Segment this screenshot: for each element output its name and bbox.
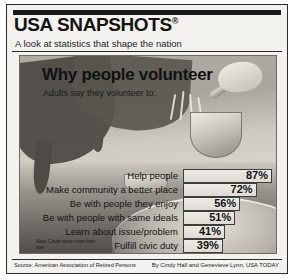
bar-track: 72%: [183, 183, 276, 197]
masthead-title: USA SNAPSHOTS®: [14, 14, 178, 36]
masthead-divider: [12, 51, 282, 52]
registered-trademark-icon: ®: [172, 16, 179, 26]
bar-label: Be with people with same ideals: [20, 211, 183, 225]
bar: 56%: [183, 197, 240, 211]
bar-track: 87%: [183, 169, 276, 183]
bar-row: Help people87%: [20, 169, 276, 183]
bar-track: 51%: [183, 211, 276, 225]
footer: Source: American Association of Retired …: [7, 262, 287, 274]
bar: 51%: [183, 211, 235, 225]
bar-value: 72%: [231, 184, 256, 195]
bar-track: 56%: [183, 197, 276, 211]
bar-track: 41%: [183, 225, 276, 239]
bar: 72%: [183, 183, 257, 197]
footer-divider: [12, 259, 282, 260]
usa-snapshots-infographic: USA SNAPSHOTS® A look at statistics that…: [6, 4, 288, 274]
bar-row: Be with people they enjoy56%: [20, 197, 276, 211]
masthead-title-text: USA SNAPSHOTS: [14, 14, 172, 35]
bar-value: 39%: [197, 240, 222, 251]
bar-label: Be with people they enjoy: [20, 197, 183, 211]
bar: 87%: [183, 169, 272, 183]
illustration-panel: Why people volunteer Adults say they vol…: [19, 55, 277, 254]
bar-label: Learn about issue/problem: [20, 225, 183, 239]
bar-value: 87%: [246, 170, 271, 181]
ladle-icon: [190, 112, 242, 158]
chart-title: Why people volunteer: [42, 65, 213, 85]
footer-credit: By Cindy Hall and Genevieve Lynn, USA TO…: [152, 262, 279, 268]
bar-row: Be with people with same ideals51%: [20, 211, 276, 225]
bar-row: Learn about issue/problem41%: [20, 225, 276, 239]
masthead-tagline: A look at statistics that shape the nati…: [15, 38, 182, 49]
bar-row: Make community a better place72%: [20, 183, 276, 197]
bar: 41%: [183, 225, 225, 239]
bar-label: Make community a better place: [20, 183, 183, 197]
chart-subtitle: Adults say they volunteer to:: [43, 88, 156, 98]
bar-value: 41%: [199, 226, 224, 237]
bar-label: Help people: [20, 169, 183, 183]
footer-source: Source: American Association of Retired …: [14, 262, 136, 268]
bar-value: 56%: [214, 198, 239, 209]
bar-track: 39%: [183, 239, 276, 253]
bar-value: 51%: [209, 212, 234, 223]
bar: 39%: [183, 239, 223, 253]
chart-note: Note: Could name more than one: [36, 239, 98, 251]
